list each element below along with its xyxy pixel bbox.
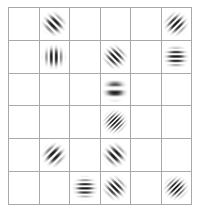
grid-cell-r4-c1[interactable] (9, 106, 40, 139)
grid-cell-r6-c2[interactable] (40, 172, 71, 205)
grid-cell-r1-c5[interactable] (131, 8, 162, 41)
grid-cell-r2-c1[interactable] (9, 41, 40, 74)
grid-cell-r5-c4[interactable] (101, 139, 132, 172)
grid-cell-r2-c2[interactable] (40, 41, 71, 74)
grid-cell-r1-c2[interactable] (40, 8, 71, 41)
grid-cell-r1-c3[interactable] (70, 8, 101, 41)
gabor-patch-diagonal-right (163, 175, 189, 201)
grid-cell-r5-c6[interactable] (162, 139, 193, 172)
gabor-patch-diagonal-left (102, 44, 128, 70)
gabor-patch-vertical (41, 44, 67, 70)
grid-cell-r3-c2[interactable] (40, 74, 71, 107)
grid-cell-r6-c1[interactable] (9, 172, 40, 205)
grid-cell-r4-c5[interactable] (131, 106, 162, 139)
gabor-patch-diagonal-right (163, 11, 189, 37)
gabor-patch-horizontal (72, 175, 98, 201)
gabor-grid (8, 7, 192, 205)
grid-cell-r2-c5[interactable] (131, 41, 162, 74)
grid-cell-r6-c3[interactable] (70, 172, 101, 205)
grid-cell-r6-c4[interactable] (101, 172, 132, 205)
gabor-patch-diagonal-left (41, 11, 67, 37)
grid-cell-r3-c4[interactable] (101, 74, 132, 107)
grid-cell-r3-c1[interactable] (9, 74, 40, 107)
gabor-patch-diagonal-right (102, 109, 128, 135)
grid-cell-r4-c2[interactable] (40, 106, 71, 139)
gabor-patch-horizontal (163, 44, 189, 70)
grid-cell-r5-c1[interactable] (9, 139, 40, 172)
gabor-patch-horizontal (102, 77, 128, 103)
grid-cell-r1-c1[interactable] (9, 8, 40, 41)
grid-cell-r2-c3[interactable] (70, 41, 101, 74)
grid-cell-r6-c5[interactable] (131, 172, 162, 205)
grid-cell-r6-c6[interactable] (162, 172, 193, 205)
grid-cell-r3-c5[interactable] (131, 74, 162, 107)
grid-cell-r1-c6[interactable] (162, 8, 193, 41)
grid-cell-r4-c6[interactable] (162, 106, 193, 139)
grid-cell-r4-c3[interactable] (70, 106, 101, 139)
grid-cell-r5-c2[interactable] (40, 139, 71, 172)
grid-cell-r4-c4[interactable] (101, 106, 132, 139)
gabor-patch-diagonal-left (102, 175, 128, 201)
grid-cell-r3-c6[interactable] (162, 74, 193, 107)
grid-cell-r5-c5[interactable] (131, 139, 162, 172)
grid-cell-r1-c4[interactable] (101, 8, 132, 41)
gabor-stimulus-canvas (0, 0, 199, 212)
grid-cell-r2-c6[interactable] (162, 41, 193, 74)
gabor-patch-diagonal-left (102, 142, 128, 168)
grid-cell-r2-c4[interactable] (101, 41, 132, 74)
grid-cell-r3-c3[interactable] (70, 74, 101, 107)
grid-cell-r5-c3[interactable] (70, 139, 101, 172)
gabor-patch-diagonal-right (41, 142, 67, 168)
